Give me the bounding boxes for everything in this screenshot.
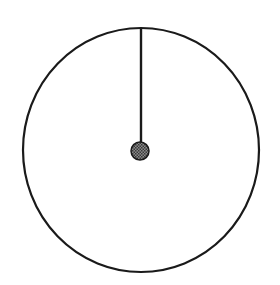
dial-diagram <box>0 0 280 285</box>
hub-dot <box>131 142 149 160</box>
